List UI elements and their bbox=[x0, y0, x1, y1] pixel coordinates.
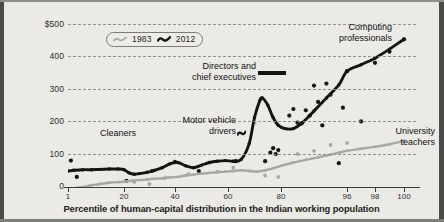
annotation-computing-professionals: Computing professionals bbox=[302, 22, 392, 43]
y-tick-500: $500 bbox=[45, 19, 64, 29]
y-tick-400: 400 bbox=[50, 51, 64, 61]
legend-label-1983: 1983 bbox=[132, 34, 152, 44]
page-edge-bottom bbox=[0, 219, 444, 222]
gridline-400 bbox=[68, 56, 416, 57]
y-tick-100: 100 bbox=[50, 149, 64, 159]
x-tick-1: 1 bbox=[66, 192, 70, 201]
x-tick-98: 98 bbox=[371, 192, 380, 201]
chart-legend[interactable]: 1983 2012 bbox=[106, 32, 203, 47]
y-tick-200: 200 bbox=[50, 116, 64, 126]
x-tick-60: 60 bbox=[224, 192, 233, 201]
page-edge-right bbox=[439, 0, 444, 222]
x-tick-96: 96 bbox=[343, 192, 352, 201]
legend-swatch-2012 bbox=[157, 35, 171, 43]
legend-label-2012: 2012 bbox=[176, 34, 196, 44]
y-tick-300: 300 bbox=[50, 84, 64, 94]
x-tick-40: 40 bbox=[171, 192, 180, 201]
chart-canvas: Real weekly wages, 2017 PPP-dollars $500… bbox=[4, 2, 439, 219]
gridline-100 bbox=[68, 154, 416, 155]
chart-page: Real weekly wages, 2017 PPP-dollars $500… bbox=[0, 0, 444, 222]
x-tick-20: 20 bbox=[120, 192, 129, 201]
gridline-200 bbox=[68, 121, 416, 122]
gridline-300 bbox=[68, 89, 416, 90]
x-tick-100: 100 bbox=[397, 192, 410, 201]
x-tick-80: 80 bbox=[277, 192, 286, 201]
annotation-cleaners: Cleaners bbox=[100, 128, 136, 139]
x-axis-title: Percentile of human-capital distribution… bbox=[4, 203, 439, 214]
annotation-leader-directors bbox=[258, 71, 286, 75]
y-axis-tick-labels: $500 400 300 200 100 0 bbox=[4, 16, 64, 187]
x-axis-line bbox=[64, 187, 420, 188]
annotation-motor-vehicle-drivers: Motor vehicle drivers bbox=[136, 115, 236, 136]
annotation-leader-motor-vehicle-drivers bbox=[237, 130, 246, 136]
legend-swatch-1983 bbox=[113, 35, 127, 43]
y-tick-0: 0 bbox=[59, 181, 64, 191]
annotation-directors-and-chief-executives: Directors and chief executives bbox=[156, 61, 256, 82]
annotation-university-teachers: University teachers bbox=[360, 126, 435, 147]
